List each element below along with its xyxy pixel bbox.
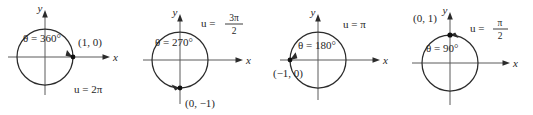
unit-circle-panel-270: y x θ = 270° (0, −1) u = 3π 2 (133, 0, 268, 115)
terminal-point-dot (71, 55, 76, 60)
x-axis-arrow-icon (236, 57, 244, 63)
theta-label: θ = 90° (426, 42, 458, 54)
terminal-point-dot (178, 86, 183, 91)
arc-length-label: u = (470, 22, 484, 34)
y-axis-label: y (172, 6, 178, 18)
arc-length-denominator: 2 (232, 26, 237, 36)
y-axis-label: y (310, 6, 316, 18)
y-axis-arrow-icon (447, 12, 453, 20)
x-axis-label: x (382, 54, 388, 66)
arc-length-numerator: 3π (229, 13, 239, 23)
unit-circle-figure-strip: y x θ = 360° (1, 0) u = 2π y x θ = 270° … (0, 0, 533, 115)
x-axis-arrow-icon (373, 57, 381, 63)
x-axis-arrow-icon (503, 60, 511, 66)
x-axis-arrow-icon (103, 54, 111, 60)
arc-length-label: u = 2π (74, 83, 103, 95)
terminal-point-dot (288, 58, 293, 63)
panel-270-canvas: y x θ = 270° (0, −1) u = 3π 2 (133, 0, 268, 115)
arc-length-label: u = (201, 17, 215, 29)
terminal-point-label: (0, −1) (185, 97, 215, 110)
x-axis-label: x (245, 54, 251, 66)
terminal-point-label: (0, 1) (413, 12, 437, 25)
panel-90-canvas: y x θ = 90° (0, 1) u = π 2 (398, 0, 533, 115)
panel-180-canvas: y x θ = 180° (−1, 0) u = π (268, 0, 398, 115)
y-axis-arrow-icon (42, 10, 48, 18)
terminal-point-label: (−1, 0) (273, 67, 303, 80)
unit-circle-panel-90: y x θ = 90° (0, 1) u = π 2 (398, 0, 533, 115)
theta-label: θ = 180° (298, 39, 336, 51)
y-axis-label: y (442, 4, 448, 16)
arc-length-numerator: π (498, 18, 503, 28)
theta-label: θ = 270° (155, 36, 193, 48)
y-axis-arrow-icon (315, 14, 321, 22)
unit-circle-panel-180: y x θ = 180° (−1, 0) u = π (268, 0, 398, 115)
y-axis-arrow-icon (177, 14, 183, 22)
x-axis-label: x (512, 57, 518, 69)
arc-length-denominator: 2 (498, 31, 503, 41)
x-axis-label: x (112, 51, 118, 63)
terminal-point-label: (1, 0) (78, 36, 102, 49)
arc-length-label: u = π (343, 18, 366, 30)
terminal-point-dot (447, 32, 452, 37)
unit-circle-panel-360: y x θ = 360° (1, 0) u = 2π (0, 0, 133, 115)
panel-360-canvas: y x θ = 360° (1, 0) u = 2π (0, 0, 133, 115)
theta-label: θ = 360° (23, 32, 61, 44)
y-axis-label: y (37, 2, 43, 14)
